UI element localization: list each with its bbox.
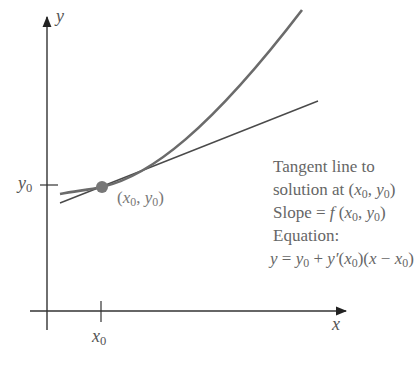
y-axis-label: y xyxy=(56,6,64,27)
annotation-line-3: Slope = f (x0, y0) xyxy=(273,201,414,224)
y0-tick-label: y0 xyxy=(18,173,32,194)
solution-curve xyxy=(60,10,302,194)
annotation-line-2: solution at (x0, y0) xyxy=(273,178,414,201)
x-axis-label: x xyxy=(332,314,340,335)
tangent-annotation: Tangent line to solution at (x0, y0) Slo… xyxy=(273,155,414,270)
point-x0-y0 xyxy=(96,181,108,193)
annotation-line-4: Equation: xyxy=(273,224,414,247)
x0-tick-label: x0 xyxy=(92,326,106,347)
annotation-line-1: Tangent line to xyxy=(273,155,414,178)
point-label: (x0, y0) xyxy=(117,188,164,208)
annotation-equation: y = y0 + y′(x0)(x − x0) xyxy=(270,247,414,270)
